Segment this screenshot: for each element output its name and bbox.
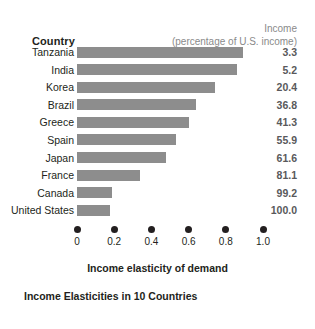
bar xyxy=(77,82,215,93)
bar-track xyxy=(77,205,263,216)
row-label-country: Tanzania xyxy=(8,46,74,58)
row-value-income: 100.0 xyxy=(253,204,297,216)
row-label-country: Korea xyxy=(8,81,74,93)
bar xyxy=(77,99,196,110)
bar xyxy=(77,187,112,198)
x-axis: 00.20.40.60.81.0 xyxy=(77,226,263,260)
table-row: Greece41.3 xyxy=(8,114,307,132)
tick-dot-icon xyxy=(148,226,155,233)
table-row: Canada99.2 xyxy=(8,185,307,203)
row-value-income: 81.1 xyxy=(253,169,297,181)
bar-track xyxy=(77,117,263,128)
bar-track xyxy=(77,134,263,145)
table-row: United States100.0 xyxy=(8,202,307,220)
bar xyxy=(77,117,189,128)
bar xyxy=(77,170,140,181)
tick-dot-icon xyxy=(260,226,267,233)
x-axis-tick-label: 0.6 xyxy=(173,236,205,247)
x-axis-tick-label: 0.4 xyxy=(135,236,167,247)
row-label-country: Spain xyxy=(8,134,74,146)
row-label-country: France xyxy=(8,169,74,181)
bar-track xyxy=(77,99,263,110)
bar-track xyxy=(77,47,263,58)
x-axis-tick-label: 1.0 xyxy=(247,236,279,247)
table-row: Brazil36.8 xyxy=(8,97,307,115)
tick-dot-icon xyxy=(222,226,229,233)
x-axis-tick-label: 0.2 xyxy=(98,236,130,247)
bar-track xyxy=(77,152,263,163)
table-row: Tanzania3.3 xyxy=(8,44,307,62)
row-value-income: 55.9 xyxy=(253,134,297,146)
bar xyxy=(77,152,166,163)
x-axis-tick-label: 0.8 xyxy=(210,236,242,247)
table-row: Spain55.9 xyxy=(8,132,307,150)
bar-track xyxy=(77,187,263,198)
row-value-income: 36.8 xyxy=(253,99,297,111)
row-value-income: 61.6 xyxy=(253,152,297,164)
bar-track xyxy=(77,64,263,75)
bar xyxy=(77,47,243,58)
chart-panel: Country Income (percentage of U.S. incom… xyxy=(8,8,307,313)
row-value-income: 20.4 xyxy=(253,81,297,93)
row-label-country: Greece xyxy=(8,116,74,128)
bar xyxy=(77,134,176,145)
row-value-income: 3.3 xyxy=(253,46,297,58)
tick-dot-icon xyxy=(185,226,192,233)
row-value-income: 5.2 xyxy=(253,64,297,76)
row-label-country: Japan xyxy=(8,152,74,164)
row-label-country: United States xyxy=(8,204,74,216)
tick-dot-icon xyxy=(111,226,118,233)
row-label-country: Brazil xyxy=(8,99,74,111)
row-value-income: 41.3 xyxy=(253,116,297,128)
table-row: France81.1 xyxy=(8,167,307,185)
bar-track xyxy=(77,170,263,181)
row-label-country: Canada xyxy=(8,187,74,199)
bar-track xyxy=(77,82,263,93)
table-row: Korea20.4 xyxy=(8,79,307,97)
chart-caption: Income Elasticities in 10 Countries xyxy=(24,290,197,302)
x-axis-title: Income elasticity of demand xyxy=(8,262,307,274)
bar-rows: Tanzania3.3India5.2Korea20.4Brazil36.8Gr… xyxy=(8,44,307,220)
row-value-income: 99.2 xyxy=(253,187,297,199)
column-header-income-line1: Income xyxy=(172,22,297,35)
table-row: Japan61.6 xyxy=(8,150,307,168)
table-row: India5.2 xyxy=(8,62,307,80)
figure-container: Country Income (percentage of U.S. incom… xyxy=(0,0,315,329)
row-label-country: India xyxy=(8,64,74,76)
x-axis-tick-label: 0 xyxy=(61,236,93,247)
bar xyxy=(77,64,237,75)
bar xyxy=(77,205,110,216)
tick-dot-icon xyxy=(74,226,81,233)
